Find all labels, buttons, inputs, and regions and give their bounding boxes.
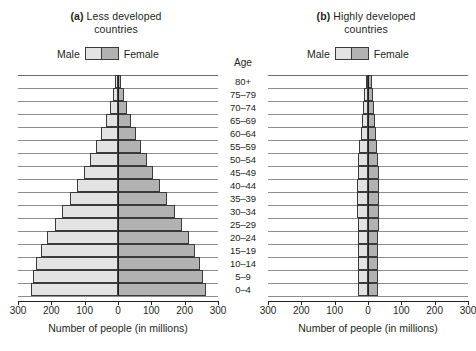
gridline: [268, 296, 468, 297]
age-label: 80+: [218, 75, 268, 88]
panel-b-legend-female-label: Female: [374, 48, 409, 60]
panel-a-legend-female-label: Female: [124, 48, 159, 60]
center-axis-line: [118, 75, 119, 296]
bar-male: [357, 192, 368, 205]
bar-male: [361, 127, 368, 140]
bar-female: [368, 179, 379, 192]
bar-female: [118, 244, 195, 257]
bar-female: [368, 205, 379, 218]
panel-b-tag: (b): [317, 10, 331, 22]
bar-female: [118, 283, 206, 296]
age-label: 55–59: [218, 140, 268, 153]
bar-female: [368, 218, 379, 231]
panel-b-title: (b) Highly developed countries: [268, 10, 464, 36]
bar-female: [368, 192, 379, 205]
panel-a-legend: Male Female: [57, 47, 159, 60]
bar-male: [47, 231, 118, 244]
x-axis-tick-label: 100: [76, 305, 93, 316]
x-axis-tick-label: 300: [210, 305, 227, 316]
x-axis-tick-label: 0: [365, 305, 371, 316]
bar-male: [357, 179, 368, 192]
panel-a-legend-male-label: Male: [57, 48, 80, 60]
bar-female: [368, 270, 378, 283]
bar-male: [358, 244, 368, 257]
gridline: [18, 296, 218, 297]
bar-female: [118, 153, 147, 166]
x-axis-tick-label: 300: [10, 305, 27, 316]
age-label: 25–29: [218, 218, 268, 231]
age-label: 75–79: [218, 88, 268, 101]
bar-female: [368, 231, 378, 244]
panel-b-legend-swatch: [335, 47, 369, 60]
bar-female: [118, 270, 203, 283]
bar-male: [101, 127, 118, 140]
age-label: 5–9: [218, 270, 268, 283]
panel-a-title: (a) Less developed countries: [18, 10, 214, 36]
x-axis-tick-label: 200: [176, 305, 193, 316]
panel-a-x-axis-title: Number of people (in millions): [18, 322, 218, 334]
x-axis-tick-label: 200: [293, 305, 310, 316]
age-label: 20–24: [218, 231, 268, 244]
bar-male: [31, 283, 118, 296]
bar-female: [118, 114, 131, 127]
panel-b-legend: Male Female: [307, 47, 409, 60]
bar-male: [358, 166, 368, 179]
x-axis-tick-label: 200: [43, 305, 60, 316]
age-label: 40–44: [218, 179, 268, 192]
bar-male: [357, 205, 368, 218]
x-axis-tick-label: 100: [143, 305, 160, 316]
bar-female: [118, 192, 167, 205]
bar-male: [358, 231, 368, 244]
bar-female: [368, 244, 378, 257]
bar-female: [368, 257, 378, 270]
bar-male: [358, 218, 368, 231]
bar-female: [118, 205, 175, 218]
bar-male: [41, 244, 118, 257]
panel-a-title-line2: countries: [94, 23, 138, 35]
panel-a-legend-swatch: [85, 47, 119, 60]
bar-female: [368, 127, 376, 140]
panel-a-plot: [18, 75, 218, 296]
legend-swatch-female: [101, 48, 118, 59]
panel-b-x-axis-title: Number of people (in millions): [268, 322, 468, 334]
bar-male: [359, 140, 368, 153]
bar-male: [110, 101, 118, 114]
age-label-column: Age 80+75–7970–7465–6960–6455–5950–5445–…: [218, 57, 268, 296]
panel-b-title-line2: countries: [344, 23, 388, 35]
age-label: 70–74: [218, 101, 268, 114]
bar-female: [368, 283, 378, 296]
x-axis-tick-label: 100: [393, 305, 410, 316]
bar-male: [77, 179, 118, 192]
age-label: 65–69: [218, 114, 268, 127]
bar-male: [96, 140, 118, 153]
bar-male: [90, 153, 118, 166]
bar-female: [368, 153, 378, 166]
bar-female: [118, 101, 127, 114]
bar-female: [368, 166, 379, 179]
panel-b-plot: [268, 75, 468, 296]
age-label: 60–64: [218, 127, 268, 140]
age-label: 10–14: [218, 257, 268, 270]
age-label: 35–39: [218, 192, 268, 205]
bar-male: [106, 114, 118, 127]
age-column-header: Age: [218, 57, 268, 68]
age-label: 0–4: [218, 283, 268, 296]
bar-male: [33, 270, 118, 283]
x-axis-tick-label: 100: [326, 305, 343, 316]
age-label: 50–54: [218, 153, 268, 166]
bar-male: [358, 153, 368, 166]
x-axis-tick-label: 300: [260, 305, 277, 316]
panel-b-legend-male-label: Male: [307, 48, 330, 60]
bar-male: [62, 205, 118, 218]
bar-male: [55, 218, 118, 231]
bar-female: [368, 140, 377, 153]
legend-swatch-male: [86, 48, 102, 59]
panel-a-title-line1: Less developed: [87, 10, 162, 22]
bar-female: [118, 140, 141, 153]
bar-male: [84, 166, 118, 179]
age-label: 15–19: [218, 244, 268, 257]
legend-swatch-female: [351, 48, 368, 59]
x-axis-tick-label: 300: [460, 305, 476, 316]
x-axis-tick-label: 200: [426, 305, 443, 316]
